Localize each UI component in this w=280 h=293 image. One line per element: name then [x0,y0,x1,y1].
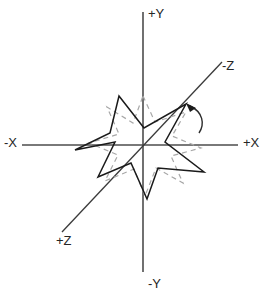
dashed-gray-star [89,96,201,196]
axis-group [22,12,238,272]
axis-label-y-negative: -Y [148,276,161,291]
axis-label-group: +X -X +Y -Y +Z -Z [4,6,260,291]
axis-label-y-positive: +Y [148,6,165,21]
axis-label-z-negative: -Z [222,58,234,73]
axis-label-x-positive: +X [243,135,260,150]
axis-label-z-positive: +Z [56,233,72,248]
rotation-arrow-group [186,103,202,133]
diagram-canvas: +X -X +Y -Y +Z -Z [0,0,280,293]
solid-black-star [75,96,204,199]
star-original-group [89,96,201,196]
coordinate-axes-diagram: +X -X +Y -Y +Z -Z [0,0,280,293]
star-rotated-group [75,96,204,199]
axis-label-x-negative: -X [4,135,17,150]
rotation-arrowhead-icon [186,103,196,112]
